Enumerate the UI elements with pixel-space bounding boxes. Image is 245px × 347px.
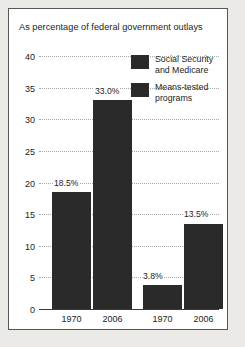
chart-figure: As percentage of federal government outl… <box>8 8 228 330</box>
bar-value-label-3: 3.8% <box>142 271 164 281</box>
xtick-label-3: 1970 <box>152 314 172 324</box>
ytick-label-20: 20 <box>25 179 35 189</box>
legend-swatch-icon <box>131 83 149 97</box>
xtick-label-4: 2006 <box>193 314 213 324</box>
ytick-label-35: 35 <box>25 84 35 94</box>
legend-item-label: Social Security and Medicare <box>155 54 213 75</box>
chart-legend: Social Security and Medicare Means-teste… <box>131 54 213 110</box>
ytick-label-40: 40 <box>25 52 35 62</box>
gridline-0: 0 <box>39 309 219 310</box>
bar-means-tested-1970[interactable] <box>143 285 182 309</box>
ytick-label-15: 15 <box>25 210 35 220</box>
ytick-label-30: 30 <box>25 115 35 125</box>
legend-swatch-icon <box>131 55 149 69</box>
legend-item-social-security[interactable]: Social Security and Medicare <box>131 54 213 75</box>
ytick-label-0: 0 <box>30 305 35 315</box>
xtick-label-2: 2006 <box>102 314 122 324</box>
ytick-label-10: 10 <box>25 242 35 252</box>
ytick-label-25: 25 <box>25 147 35 157</box>
bar-value-label-2: 33.0% <box>94 86 120 96</box>
legend-item-means-tested[interactable]: Means-tested programs <box>131 82 213 103</box>
ytick-label-5: 5 <box>30 273 35 283</box>
legend-item-label: Means-tested programs <box>155 82 208 103</box>
xtick-label-1: 1970 <box>61 314 81 324</box>
bar-value-label-1: 18.5% <box>53 178 79 188</box>
bar-social-security-1970[interactable] <box>52 192 91 309</box>
bar-value-label-4: 13.5% <box>183 209 209 219</box>
bar-means-tested-2006[interactable] <box>184 224 223 309</box>
bar-social-security-2006[interactable] <box>93 100 132 309</box>
chart-title: As percentage of federal government outl… <box>19 22 203 32</box>
